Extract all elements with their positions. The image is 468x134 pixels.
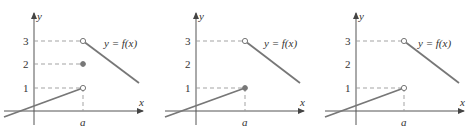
graph-2: y x 3 2 1 a y = f(x) bbox=[165, 10, 305, 128]
open-point-right-limit bbox=[242, 38, 247, 43]
open-point-left-limit bbox=[401, 85, 406, 90]
y-axis-label: y bbox=[358, 10, 364, 22]
y-tick-2: 2 bbox=[23, 58, 29, 70]
open-point-left-limit bbox=[80, 85, 85, 90]
open-point-right-limit bbox=[80, 38, 85, 43]
y-tick-2: 2 bbox=[345, 58, 351, 70]
left-segment bbox=[165, 88, 245, 117]
y-tick-3: 3 bbox=[185, 35, 191, 47]
left-segment bbox=[325, 88, 404, 117]
filled-point-f-a bbox=[81, 62, 86, 67]
open-point-right-limit bbox=[401, 38, 406, 43]
x-tick-a: a bbox=[80, 116, 86, 128]
x-tick-a: a bbox=[242, 116, 248, 128]
y-tick-3: 3 bbox=[23, 35, 29, 47]
y-tick-2: 2 bbox=[185, 58, 191, 70]
x-axis-label: x bbox=[138, 96, 144, 108]
y-tick-1: 1 bbox=[23, 82, 29, 94]
x-axis-label: x bbox=[459, 96, 465, 108]
curve-label: y = f(x) bbox=[417, 37, 451, 50]
y-tick-1: 1 bbox=[185, 82, 191, 94]
graph-1: y x 3 2 1 a y = f(x) bbox=[4, 10, 144, 128]
y-axis-label: y bbox=[36, 10, 42, 22]
y-axis-label: y bbox=[198, 10, 204, 22]
filled-point-f-a bbox=[243, 86, 248, 91]
x-tick-a: a bbox=[401, 116, 407, 128]
y-tick-1: 1 bbox=[345, 82, 351, 94]
y-tick-3: 3 bbox=[345, 35, 351, 47]
graph-3: y x 3 2 1 a y = f(x) bbox=[325, 10, 465, 128]
left-segment bbox=[4, 88, 83, 117]
curve-label: y = f(x) bbox=[263, 37, 297, 50]
x-axis-label: x bbox=[299, 96, 305, 108]
diagram-canvas: y x 3 2 1 a y = f(x) y x 3 2 1 a y = f(x… bbox=[0, 0, 468, 134]
curve-label: y = f(x) bbox=[103, 37, 137, 50]
